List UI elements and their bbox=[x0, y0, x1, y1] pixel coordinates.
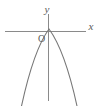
x-axis-label: x bbox=[88, 20, 94, 32]
parabola-figure: y x O bbox=[0, 0, 104, 106]
parabola-curve bbox=[22, 29, 78, 106]
figure-canvas: y x O bbox=[0, 0, 104, 106]
y-axis-label: y bbox=[44, 3, 50, 15]
origin-label: O bbox=[38, 33, 45, 44]
